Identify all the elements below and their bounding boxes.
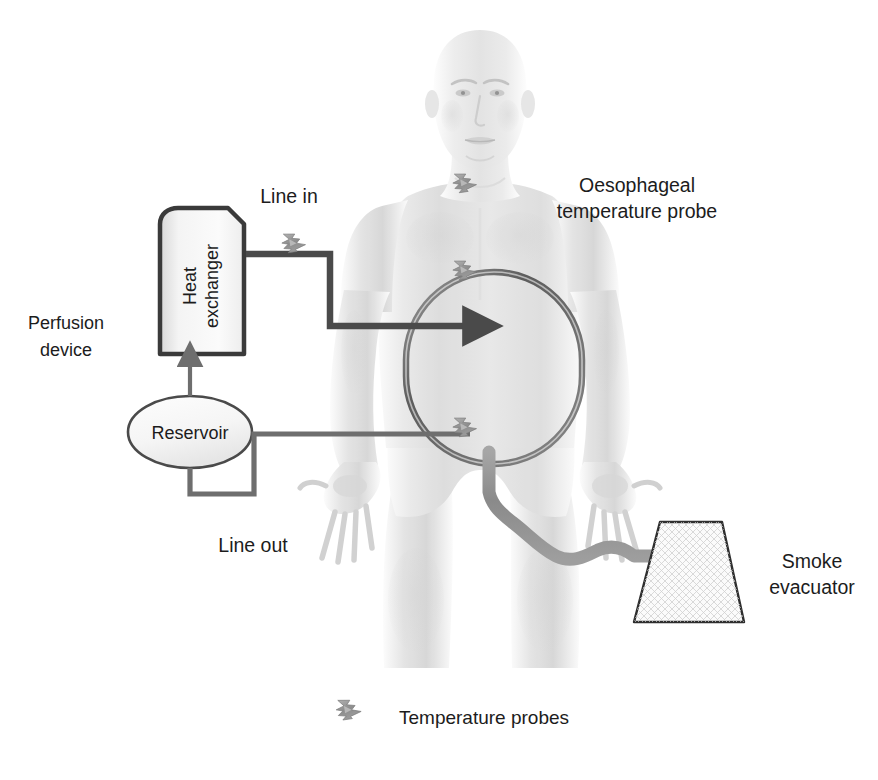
heat-exchanger[interactable]: Heat exchanger (160, 208, 244, 354)
perfusion-device-label-line2: device (40, 340, 92, 360)
right-ear (521, 90, 535, 118)
diagram-canvas: Heat exchanger Reservoir Perfusion devic… (0, 0, 878, 780)
heat-exchanger-label-line2: exchanger (202, 244, 222, 328)
right-pectoral-shading (486, 212, 554, 264)
left-cheek-shading (441, 100, 463, 132)
left-arm-shading (341, 310, 367, 394)
line-in-label: Line in (260, 185, 317, 207)
left-pectoral-shading (406, 212, 474, 264)
left-ear (425, 90, 439, 118)
smoke-evacuator-label-line1: Smoke (782, 550, 843, 572)
left-pupil (461, 91, 465, 95)
reservoir-label: Reservoir (151, 423, 228, 443)
perfusion-device-label-line1: Perfusion (28, 313, 104, 333)
heat-exchanger-label-line1: Heat (180, 267, 200, 305)
line-out-label: Line out (218, 534, 288, 556)
oesophageal-probe-label-line1: Oesophageal (579, 174, 695, 196)
right-pupil (495, 91, 499, 95)
right-cheek-shading (497, 100, 519, 132)
legend-label: Temperature probes (399, 707, 569, 728)
left-palm-shading (333, 475, 367, 497)
oesophageal-probe-label-line2: temperature probe (557, 200, 717, 222)
right-palm-shading (592, 474, 628, 498)
smoke-evacuator-label-line2: evacuator (769, 576, 855, 598)
left-leg-shading (388, 548, 444, 652)
reservoir[interactable]: Reservoir (128, 396, 252, 468)
perfusion-diagram-svg: Heat exchanger Reservoir Perfusion devic… (0, 0, 878, 780)
right-arm-shading (593, 310, 619, 394)
